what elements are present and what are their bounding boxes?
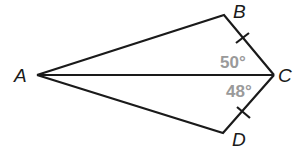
diagram-canvas: A B C D 50° 48° [0,0,293,148]
vertex-label-A: A [13,65,27,86]
vertex-label-C: C [278,65,292,86]
vertex-label-D: D [232,129,246,148]
vertex-label-B: B [233,1,246,22]
angle-label-BCA: 50° [220,53,246,72]
kite-diagram: A B C D 50° 48° [0,0,293,148]
angle-label-ACD: 48° [226,82,252,101]
